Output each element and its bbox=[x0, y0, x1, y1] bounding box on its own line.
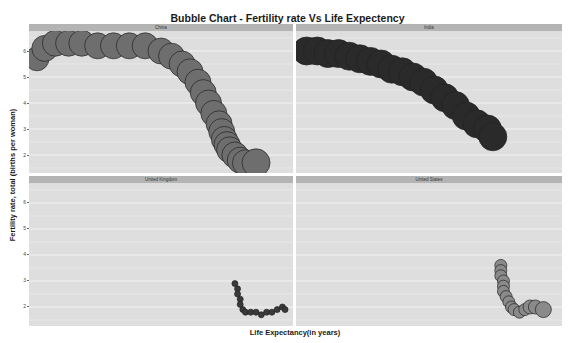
bubble bbox=[242, 149, 270, 173]
facet-panel-united-states: United States bbox=[296, 176, 562, 326]
plot-area bbox=[29, 183, 293, 326]
facet-strip-label: China bbox=[29, 24, 293, 31]
plot-area bbox=[296, 31, 562, 173]
plot-area bbox=[296, 183, 562, 326]
chart-title: Bubble Chart - Fertility rate Vs Life Ex… bbox=[0, 12, 575, 24]
bubble bbox=[479, 123, 507, 151]
facet-panel-united-kingdom: United Kingdom bbox=[29, 176, 293, 326]
x-axis-label: Life Expectancy(in years) bbox=[0, 328, 575, 337]
y-axis-ticks-bottom: 6 5 4 3 2 bbox=[20, 0, 29, 343]
bubble bbox=[282, 307, 288, 313]
plot-area bbox=[29, 31, 293, 173]
facet-strip-label: India bbox=[296, 24, 562, 31]
bubble bbox=[535, 302, 551, 318]
facet-panel-china: China bbox=[29, 24, 293, 173]
facet-strip-label: United States bbox=[296, 176, 562, 183]
facet-panel-india: India bbox=[296, 24, 562, 173]
facet-strip-label: United Kingdom bbox=[29, 176, 293, 183]
y-axis-label: Fertility rate, total (births per woman) bbox=[8, 109, 17, 242]
